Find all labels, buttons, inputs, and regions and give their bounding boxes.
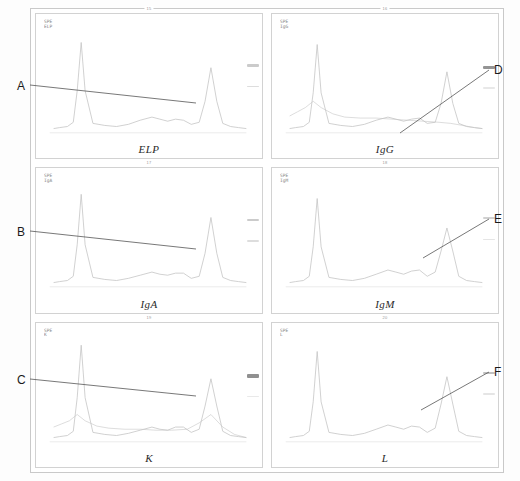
panel-title: L [272, 452, 498, 464]
gel-band [247, 240, 259, 242]
trace-line [54, 345, 247, 437]
panel-title: ELP [36, 143, 262, 155]
densitometry-trace [272, 168, 498, 312]
gel-band [247, 86, 259, 88]
gel-band [247, 374, 259, 377]
densitometry-trace [36, 14, 262, 158]
panel-title: IgG [272, 143, 498, 155]
annotation-letter-a: A [17, 80, 25, 92]
gel-band-strip [247, 354, 259, 420]
annotation-letter-e: E [494, 213, 502, 225]
gel-band-strip [247, 46, 259, 112]
gel-band [247, 64, 259, 66]
gel-band-strip [247, 200, 259, 266]
gel-band-strip [483, 46, 495, 112]
panel-number: 19 [144, 315, 153, 321]
trace-line [54, 42, 247, 128]
panel-title: K [36, 452, 262, 464]
densitometry-trace [36, 323, 262, 467]
trace-line [54, 195, 247, 283]
gel-band-strip [483, 200, 495, 266]
panel-elp[interactable]: 15SPE ELPELP [35, 13, 263, 159]
gel-band [483, 239, 495, 241]
panel-number: 20 [380, 315, 389, 321]
annotation-letter-b: B [17, 226, 25, 238]
figure-frame: 15SPE ELPELP16SPE IgGIgG17SPE IgAIgA18SP… [30, 8, 504, 473]
trace-line [290, 351, 483, 437]
gel-band [247, 396, 259, 398]
panel-title: IgM [272, 298, 498, 310]
panel-iga[interactable]: 17SPE IgAIgA [35, 167, 263, 313]
annotation-letter-f: F [494, 366, 501, 378]
panel-number: 17 [144, 160, 153, 166]
panel-grid: 15SPE ELPELP16SPE IgGIgG17SPE IgAIgA18SP… [31, 9, 503, 472]
trace-line [54, 414, 247, 437]
panel-igm[interactable]: 18SPE IgMIgM [271, 167, 499, 313]
trace-line [290, 199, 483, 283]
trace-line [290, 45, 483, 129]
densitometry-trace [272, 14, 498, 158]
panel-number: 15 [144, 6, 153, 12]
panel-number: 16 [380, 6, 389, 12]
annotation-letter-c: C [17, 374, 26, 386]
densitometry-trace [272, 323, 498, 467]
panel-number: 18 [380, 160, 389, 166]
annotation-letter-d: D [494, 64, 503, 76]
densitometry-trace [36, 168, 262, 312]
gel-band [483, 87, 495, 89]
panel-l[interactable]: 20SPE LL [271, 322, 499, 468]
gel-band [483, 393, 495, 395]
panel-title: IgA [36, 298, 262, 310]
gel-band [247, 219, 259, 221]
panel-igg[interactable]: 16SPE IgGIgG [271, 13, 499, 159]
panel-k[interactable]: 19SPE KK [35, 322, 263, 468]
